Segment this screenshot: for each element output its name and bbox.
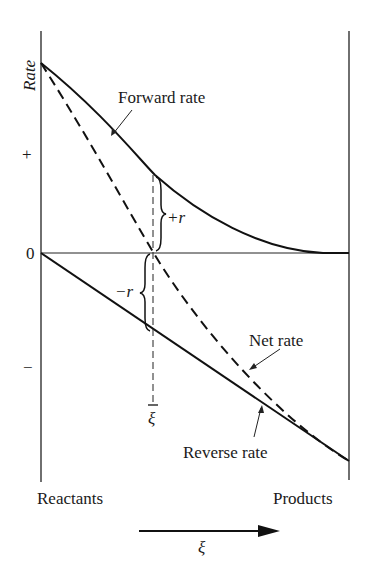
net-pointer-head	[249, 363, 257, 370]
net-pointer	[252, 349, 280, 368]
forward-rate-label: Forward rate	[118, 88, 205, 107]
net-rate-curve	[41, 63, 349, 461]
reverse-pointer-head	[258, 405, 264, 413]
y-axis-label: Rate	[20, 59, 39, 92]
zero-tick-label: 0	[26, 244, 35, 263]
reverse-rate-label: Reverse rate	[183, 443, 267, 462]
net-rate-label: Net rate	[249, 331, 303, 350]
minus-r-label: −r	[115, 282, 133, 301]
minus-r-brace	[140, 254, 150, 331]
plus-r-brace	[156, 177, 166, 251]
xi-label: ξ	[198, 538, 206, 557]
products-label: Products	[273, 489, 333, 508]
xi-bar-label: ξ	[148, 409, 156, 428]
reactants-label: Reactants	[37, 489, 103, 508]
minus-tick-label: −	[23, 358, 33, 377]
xi-arrow-head	[258, 525, 280, 537]
plus-r-label: +r	[167, 208, 185, 227]
forward-pointer	[113, 110, 132, 134]
rate-diagram: Rate + 0 − Forward rate Net rate Reverse…	[0, 0, 375, 588]
plus-tick-label: +	[22, 145, 32, 164]
reverse-rate-line	[41, 253, 349, 461]
